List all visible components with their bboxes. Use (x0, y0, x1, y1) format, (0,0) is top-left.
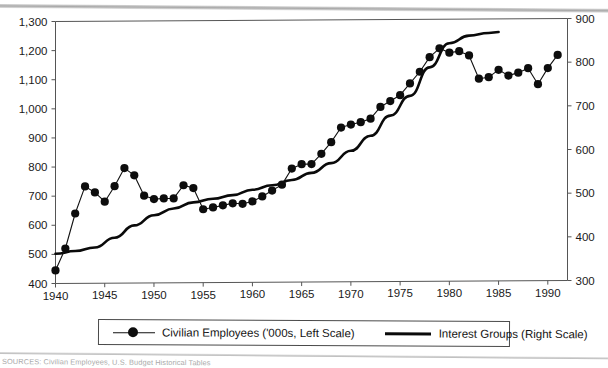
data-point-marker (357, 118, 365, 126)
data-point-marker (71, 209, 79, 217)
data-point-marker (110, 182, 118, 190)
right-axis-tick-label: 500 (576, 187, 595, 199)
axes-layer (52, 19, 572, 288)
left-axis-tick-label: 1,200 (19, 45, 48, 57)
x-axis-tick-label: 1970 (338, 288, 364, 300)
data-point-marker (288, 164, 296, 172)
data-point-marker (494, 66, 502, 74)
x-axis-tick-label: 1945 (92, 289, 118, 301)
chart-plot-area: 4005006007008009001,0001,1001,2001,30030… (0, 0, 608, 368)
data-point-marker (445, 49, 453, 57)
data-point-marker (209, 203, 217, 211)
data-point-marker (426, 53, 434, 61)
x-axis-tick-label: 1940 (43, 290, 69, 302)
data-point-marker (278, 181, 286, 189)
x-axis-tick-label: 1955 (190, 289, 216, 301)
left-axis-tick-label: 900 (28, 132, 47, 144)
data-point-marker (327, 138, 335, 146)
data-point-marker (189, 184, 197, 192)
right-axis-tick-label: 400 (576, 231, 595, 243)
right-axis-tick-label: 600 (576, 144, 595, 156)
top-axis-rule (56, 19, 568, 22)
tick-labels-layer: 4005006007008009001,0001,1001,2001,30030… (19, 13, 595, 302)
data-point-marker (406, 79, 414, 87)
data-point-marker (317, 150, 325, 158)
data-point-marker (229, 199, 237, 207)
data-point-marker (347, 120, 355, 128)
right-axis-tick-label: 900 (576, 13, 595, 25)
left-axis-tick-label: 800 (28, 161, 47, 173)
data-point-marker (170, 194, 178, 202)
right-axis-tick-label: 700 (576, 100, 595, 112)
data-point-marker (465, 51, 473, 59)
left-axis-tick-label: 600 (28, 219, 47, 231)
data-point-marker (150, 195, 158, 203)
legend-marker-circle-line-icon (113, 327, 155, 337)
chart-figure: 4005006007008009001,0001,1001,2001,30030… (0, 0, 608, 368)
right-axis-tick-label: 800 (576, 56, 595, 68)
data-point-marker (179, 181, 187, 189)
data-point-marker (534, 80, 542, 88)
data-point-marker (435, 44, 443, 52)
data-point-marker (268, 186, 276, 194)
data-point-marker (554, 51, 562, 59)
legend-label-interest-groups: Interest Groups (Right Scale) (439, 328, 588, 341)
data-point-marker (298, 160, 306, 168)
data-point-marker (544, 64, 552, 72)
data-point-marker (120, 164, 128, 172)
data-point-marker (61, 244, 69, 252)
data-point-marker (396, 91, 404, 99)
legend-item-interest-groups: Interest Groups (Right Scale) (385, 327, 588, 340)
source-note: SOURCES: Civilian Employees, U.S. Budget… (2, 357, 211, 367)
data-point-marker (475, 75, 483, 83)
left-axis-tick-label: 400 (28, 278, 47, 290)
data-point-marker (376, 103, 384, 111)
legend-marker-thick-line-icon (385, 332, 431, 335)
data-point-marker (504, 72, 512, 80)
x-axis-tick-label: 1980 (437, 287, 463, 299)
data-point-marker (140, 192, 148, 200)
data-point-marker (238, 200, 246, 208)
left-axis-tick-label: 1,100 (19, 74, 48, 86)
data-point-marker (524, 64, 532, 72)
legend-item-civilian-employees: Civilian Employees ('000s, Left Scale) (113, 326, 355, 339)
data-point-marker (101, 198, 109, 206)
series-civilian-employees-line (56, 48, 558, 270)
x-axis-tick-label: 1950 (141, 289, 167, 301)
left-axis-tick-label: 1,000 (19, 103, 48, 115)
data-point-marker (307, 160, 315, 168)
data-point-marker (91, 188, 99, 196)
chart-legend: Civilian Employees ('000s, Left Scale) I… (98, 319, 510, 347)
data-point-marker (514, 69, 522, 77)
x-axis-tick-label: 1990 (535, 287, 561, 299)
data-point-marker (51, 266, 59, 274)
left-axis-tick-label: 700 (28, 190, 47, 202)
data-point-marker (130, 171, 138, 179)
data-point-marker (386, 97, 394, 105)
data-point-marker (81, 182, 89, 190)
data-point-marker (258, 192, 266, 200)
legend-label-civilian-employees: Civilian Employees ('000s, Left Scale) (162, 326, 355, 339)
left-axis-tick-label: 1,300 (19, 16, 48, 28)
x-axis-tick-label: 1960 (240, 288, 266, 300)
right-axis-tick-label: 300 (576, 275, 595, 287)
data-point-marker (160, 194, 168, 202)
data-point-marker (199, 205, 207, 213)
data-point-marker (337, 123, 345, 131)
data-point-marker (485, 73, 493, 81)
series-layer (51, 32, 561, 274)
data-point-marker (416, 68, 424, 76)
data-point-marker (248, 197, 256, 205)
x-axis-tick-label: 1965 (289, 288, 315, 300)
x-axis-tick-label: 1985 (486, 287, 512, 299)
data-point-marker (455, 47, 463, 55)
x-axis-tick-label: 1975 (387, 287, 413, 299)
left-axis-tick-label: 500 (28, 248, 47, 260)
bottom-axis-spine (56, 281, 568, 284)
data-point-marker (366, 115, 374, 123)
data-point-marker (219, 201, 227, 209)
series-interest-groups-line (56, 32, 499, 254)
